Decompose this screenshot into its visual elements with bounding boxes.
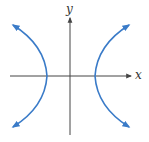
hyperbola-left-branch-lower bbox=[13, 76, 47, 127]
hyperbola-right-branch-lower bbox=[95, 76, 129, 127]
hyperbola-diagram: y x bbox=[0, 0, 149, 142]
x-axis-label: x bbox=[135, 69, 142, 81]
plot-canvas bbox=[0, 0, 149, 142]
hyperbola-right-branch-upper bbox=[95, 25, 129, 76]
hyperbola-left-branch-upper bbox=[13, 25, 47, 76]
y-axis-label: y bbox=[66, 3, 73, 15]
